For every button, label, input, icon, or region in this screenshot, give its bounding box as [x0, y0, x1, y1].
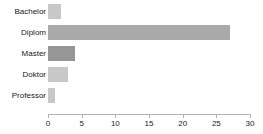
- x-axis-tick: [82, 114, 83, 118]
- category-label-bachelor: Bachelor: [2, 4, 46, 19]
- bar-diplom: [48, 25, 230, 40]
- bar-master: [48, 46, 75, 61]
- x-axis-tick-label: 0: [36, 119, 60, 129]
- x-axis-tick: [216, 114, 217, 118]
- x-axis-tick: [115, 114, 116, 118]
- x-axis-tick-label: 30: [238, 119, 262, 129]
- x-axis-tick: [250, 114, 251, 118]
- x-axis-tick-label: 10: [103, 119, 127, 129]
- plot-area: [48, 4, 250, 114]
- category-label-diplom: Diplom: [2, 25, 46, 40]
- category-axis-labels: Bachelor Diplom Master Doktor Professor: [0, 4, 46, 114]
- x-axis-tick: [149, 114, 150, 118]
- x-axis-tick-label: 25: [204, 119, 228, 129]
- x-axis-tick-label: 5: [70, 119, 94, 129]
- x-axis-tick-label: 20: [171, 119, 195, 129]
- category-label-doktor: Doktor: [2, 67, 46, 82]
- x-axis-tick-label: 15: [137, 119, 161, 129]
- x-axis-tick: [48, 114, 49, 118]
- bar-bachelor: [48, 4, 61, 19]
- category-label-master: Master: [2, 46, 46, 61]
- bar-doktor: [48, 67, 68, 82]
- x-axis-tick: [183, 114, 184, 118]
- category-label-professor: Professor: [2, 88, 46, 103]
- bar-chart: Bachelor Diplom Master Doktor Professor …: [0, 0, 263, 134]
- bar-professor: [48, 88, 55, 103]
